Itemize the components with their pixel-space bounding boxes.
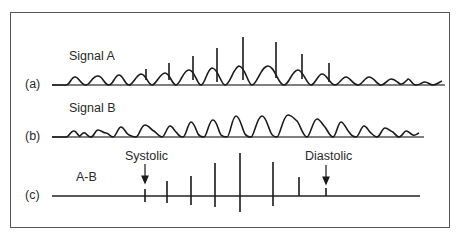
signal-a-spikes [146,37,329,82]
waveform-canvas [0,0,456,237]
row-marker-b: (b) [25,129,40,143]
diastolic-label: Diastolic [305,149,352,163]
diastolic-arrow-icon [323,165,329,184]
signal-a-title: Signal A [69,49,115,63]
row-marker-a: (a) [25,77,40,91]
signal-b-trace [52,115,419,137]
signal-b-title: Signal B [69,101,116,115]
signal-c-title: A-B [76,170,97,184]
signal-a-trace [52,66,442,85]
signal-c-spikes [145,153,326,212]
systolic-arrow-icon [142,164,148,183]
row-marker-c: (c) [25,188,40,202]
systolic-label: Systolic [125,149,168,163]
